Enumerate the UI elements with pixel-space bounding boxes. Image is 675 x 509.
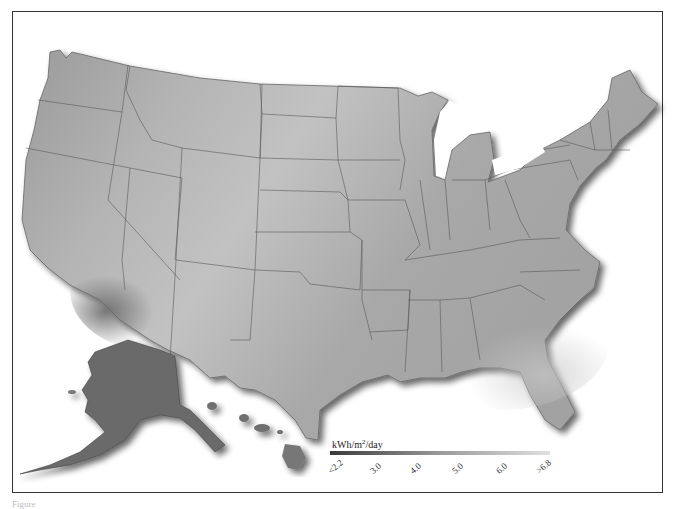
legend-color-bar xyxy=(330,451,550,455)
southeast-region-shade xyxy=(390,270,610,410)
legend-title: kWh/m2/day xyxy=(332,438,383,450)
legend-unit-prefix: kWh/m xyxy=(332,439,362,450)
figure-caption: Figure xyxy=(12,499,36,509)
southwest-high-radiation xyxy=(70,230,230,350)
legend-unit-suffix: /day xyxy=(366,439,383,450)
